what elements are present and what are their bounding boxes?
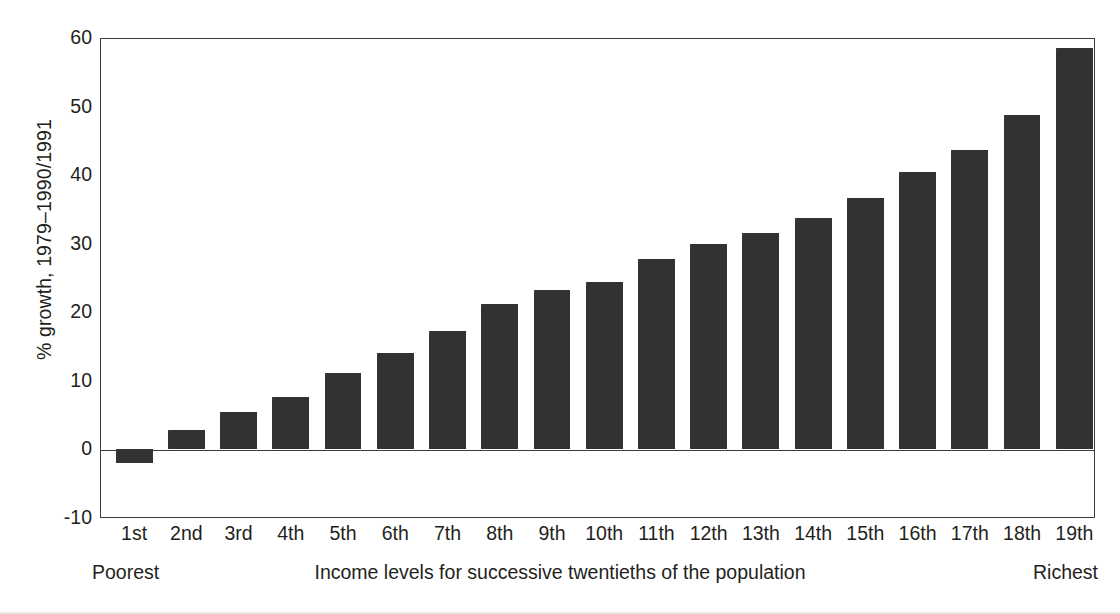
x-tick-label: 19th (1048, 521, 1100, 545)
x-tick-label: 9th (526, 521, 578, 545)
x-tick-label: 1st (108, 521, 160, 545)
bar (1056, 48, 1093, 449)
x-tick-label: 10th (578, 521, 630, 545)
bar (116, 449, 153, 463)
bar (638, 259, 675, 449)
x-tick-label: 15th (839, 521, 891, 545)
y-tick-label: 30 (34, 234, 92, 254)
bar (951, 150, 988, 450)
caption-row: Poorest Income levels for successive twe… (0, 561, 1120, 591)
bar (1004, 115, 1041, 450)
bar (847, 198, 884, 449)
y-axis-tick-labels: -100102030405060 (28, 0, 92, 614)
x-tick-label: 17th (944, 521, 996, 545)
bar (481, 304, 518, 449)
x-tick-label: 14th (787, 521, 839, 545)
x-tick-label: 7th (421, 521, 473, 545)
y-tick-label: 60 (34, 28, 92, 48)
bar (742, 233, 779, 450)
x-tick-label: 11th (630, 521, 682, 545)
x-tick-label: 12th (683, 521, 735, 545)
bar (795, 218, 832, 450)
y-tick-label: 50 (34, 97, 92, 117)
bar (899, 172, 936, 450)
bar-series (100, 38, 1095, 518)
x-tick-label: 8th (474, 521, 526, 545)
x-tick-label: 3rd (212, 521, 264, 545)
x-tick-label: 2nd (160, 521, 212, 545)
bar-chart-figure: % growth, 1979–1990/1991 -10010203040506… (0, 0, 1120, 614)
x-axis-caption: Income levels for successive twentieths … (0, 561, 1120, 584)
x-axis-tick-labels: 1st2nd3rd4th5th6th7th8th9th10th11th12th1… (100, 521, 1095, 549)
y-tick-label: 40 (34, 165, 92, 185)
x-tick-label: 6th (369, 521, 421, 545)
bar (534, 290, 571, 450)
x-tick-label: 16th (891, 521, 943, 545)
y-tick-label: -10 (34, 508, 92, 528)
bar (168, 430, 205, 449)
y-tick-label: 10 (34, 371, 92, 391)
x-tick-label: 4th (265, 521, 317, 545)
x-tick-label: 18th (996, 521, 1048, 545)
bar (272, 397, 309, 450)
bar (377, 353, 414, 449)
y-tick-label: 0 (34, 439, 92, 459)
caption-richest: Richest (1033, 561, 1098, 584)
bar (429, 331, 466, 449)
bar (690, 244, 727, 450)
x-tick-label: 13th (735, 521, 787, 545)
bar (586, 282, 623, 449)
bar (325, 373, 362, 450)
y-tick-label: 20 (34, 302, 92, 322)
x-tick-label: 5th (317, 521, 369, 545)
bar (220, 412, 257, 450)
